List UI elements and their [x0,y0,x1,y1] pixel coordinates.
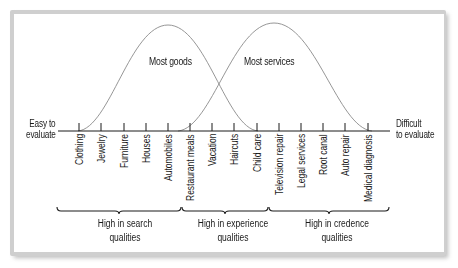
difficult-to-evaluate-label: Difficult to evaluate [396,118,434,140]
item-automobiles: Automobiles [163,134,174,181]
search-label-line1: High in search [78,217,172,231]
credence-bracket [269,207,389,214]
most-goods-label: Most goods [149,56,192,67]
item-haircuts: Haircuts [229,134,240,165]
easy-label-line1: Easy to [26,118,56,129]
item-furniture: Furniture [119,134,130,168]
item-houses: Houses [141,134,152,163]
axis-ticks [79,123,368,131]
item-medical-diagnosis: Medical diagnosis [363,134,374,202]
item-clothing: Clothing [74,134,85,165]
goods-curve [78,25,258,131]
experience-qualities-label: High in experience qualities [184,217,283,245]
credence-label-line1: High in credence [290,217,384,231]
experience-bracket [182,207,268,214]
item-auto-repair: Auto repair [340,134,351,176]
item-jewelry: Jewelry [96,134,107,163]
experience-label-line1: High in experience [184,217,283,231]
search-qualities-label: High in search qualities [78,217,172,245]
item-restaurant-meals: Restaurant meals [185,134,196,201]
easy-to-evaluate-label: Easy to evaluate [26,118,56,140]
most-services-label: Most services [244,56,295,67]
search-bracket [57,207,181,214]
services-curve [178,23,372,131]
experience-label-line2: qualities [184,231,283,245]
credence-label-line2: qualities [290,231,384,245]
easy-label-line2: evaluate [26,129,56,140]
search-label-line2: qualities [78,231,172,245]
difficult-label-line1: Difficult [396,118,434,129]
item-television-repair: Television repair [274,134,285,195]
credence-qualities-label: High in credence qualities [290,217,384,245]
item-root-canal: Root canal [318,134,329,175]
item-child-care: Child care [252,134,263,172]
difficult-label-line2: to evaluate [396,129,434,140]
item-legal-services: Legal services [296,134,307,188]
item-vacation: Vacation [207,134,218,166]
